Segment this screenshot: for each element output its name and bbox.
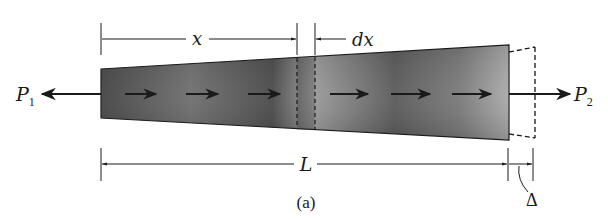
p2-label: P2 (573, 83, 593, 109)
dx-element (297, 58, 315, 130)
dimension-x: x (101, 23, 297, 55)
deformed-bottom-edge (509, 134, 535, 138)
delta-leader (519, 166, 528, 192)
tapered-bar-diagram: x dx P1 P2 (0, 0, 608, 219)
x-label: x (192, 28, 202, 49)
load-p1: P1 (15, 83, 101, 109)
dimension-dx: dx (315, 23, 374, 55)
delta-label: Δ (526, 190, 538, 210)
L-label: L (299, 153, 313, 175)
p1-label: P1 (15, 83, 35, 109)
load-p2: P2 (509, 83, 593, 109)
deformed-outline (509, 47, 535, 138)
dx-label: dx (352, 29, 374, 50)
figure-caption: (a) (297, 193, 316, 212)
dimension-L: L (101, 148, 508, 181)
dimension-delta: Δ (509, 148, 538, 210)
deformed-top-edge (509, 47, 535, 52)
tapered-bar (101, 45, 509, 140)
